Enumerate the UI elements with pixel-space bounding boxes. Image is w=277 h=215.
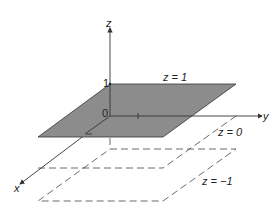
z-axis-label: z: [105, 17, 112, 29]
plane-z-1: [38, 84, 236, 137]
diagram: z y x 1 0 z = 1 z = 0 z = −1: [0, 0, 277, 215]
plane-label-z0: z = 0: [217, 126, 243, 138]
plane-label-zm1: z = −1: [201, 175, 233, 187]
x-axis-label: x: [13, 182, 20, 194]
plane-label-z1: z = 1: [162, 71, 187, 83]
z-tick-label: 1: [103, 77, 109, 89]
y-axis-label: y: [262, 110, 270, 122]
origin-label: 0: [102, 107, 108, 119]
